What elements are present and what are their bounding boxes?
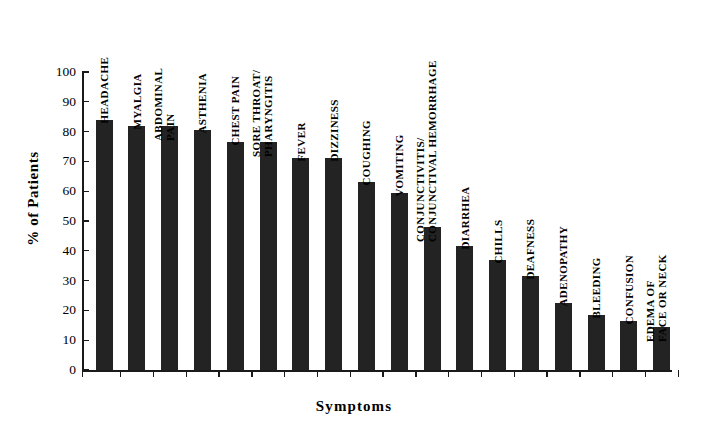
bar xyxy=(424,227,441,370)
x-axis-origin-tick xyxy=(82,370,83,377)
x-axis-tick xyxy=(546,370,547,377)
category-label: ABDOMINAL PAIN xyxy=(153,67,176,140)
bar-chart: % of Patients Symptoms 01020304050607080… xyxy=(0,0,708,435)
bar xyxy=(555,303,572,370)
category-label: ASTHENIA xyxy=(197,73,209,134)
bar xyxy=(456,246,473,370)
category-label: SORE THROAT/ PHARYNGITIS xyxy=(251,70,274,157)
x-axis-tick xyxy=(251,370,252,377)
category-label: EDEMA OF FACE OR NECK xyxy=(645,254,668,342)
y-axis-tick-label: 30 xyxy=(42,274,76,288)
x-axis-tick xyxy=(218,370,219,377)
x-axis-tick xyxy=(186,370,187,377)
x-axis-tick xyxy=(284,370,285,377)
x-axis-tick xyxy=(678,370,679,377)
bar xyxy=(161,126,178,370)
y-axis-tick xyxy=(82,340,89,341)
bar xyxy=(96,120,113,370)
x-axis-tick xyxy=(317,370,318,377)
category-label: DEAFNESS xyxy=(525,219,537,280)
x-axis-tick xyxy=(481,370,482,377)
category-label: VOMITING xyxy=(394,134,406,196)
category-label: CHEST PAIN xyxy=(230,76,242,146)
category-label: MYALGIA xyxy=(131,73,143,129)
category-label: ADENOPATHY xyxy=(558,226,570,307)
y-axis-tick-label: 70 xyxy=(42,154,76,168)
y-axis-tick-label: 40 xyxy=(42,244,76,258)
y-axis-tick-label: 90 xyxy=(42,95,76,109)
y-axis-tick xyxy=(82,310,89,311)
y-axis-tick-label: 80 xyxy=(42,125,76,139)
x-axis-tick xyxy=(645,370,646,377)
x-axis-line xyxy=(82,370,672,372)
x-axis-tick xyxy=(579,370,580,377)
bar xyxy=(620,321,637,370)
x-axis-tick xyxy=(153,370,154,377)
x-axis-title: Symptoms xyxy=(0,398,708,415)
category-label: CONJUNCTIVITIS/ CONJUNCTIVAL HEMORRHAGE xyxy=(415,60,438,242)
category-label: FEVER xyxy=(295,123,307,162)
y-axis-tick-label: 100 xyxy=(42,65,76,79)
y-axis-tick-label: 0 xyxy=(42,363,76,377)
x-axis-tick xyxy=(415,370,416,377)
bar xyxy=(194,130,211,370)
y-axis-tick xyxy=(82,101,89,102)
x-axis-tick xyxy=(612,370,613,377)
x-axis-tick xyxy=(120,370,121,377)
bar xyxy=(325,158,342,370)
category-label: HEADACHE xyxy=(99,56,111,123)
x-axis-tick xyxy=(448,370,449,377)
y-axis-tick-label: 10 xyxy=(42,333,76,347)
category-label: DIZZINESS xyxy=(328,100,340,162)
y-axis-tick-label: 60 xyxy=(42,184,76,198)
x-axis-tick xyxy=(514,370,515,377)
y-axis-tick xyxy=(82,220,89,221)
category-label: DIARRHEA xyxy=(459,187,471,250)
bar xyxy=(489,260,506,370)
y-axis-tick-label: 50 xyxy=(42,214,76,228)
y-axis-title: % of Patients xyxy=(25,119,42,279)
bar xyxy=(292,158,309,370)
y-axis-tick xyxy=(82,250,89,251)
category-label: CONFUSION xyxy=(623,255,635,325)
category-label: BLEEDING xyxy=(591,257,603,318)
x-axis-tick xyxy=(382,370,383,377)
y-axis-tick xyxy=(82,191,89,192)
y-axis-tick-label: 20 xyxy=(42,303,76,317)
y-axis-tick xyxy=(82,161,89,162)
bar xyxy=(588,315,605,370)
y-axis-tick xyxy=(82,280,89,281)
bar xyxy=(358,182,375,370)
x-axis-tick xyxy=(350,370,351,377)
category-label: COUGHING xyxy=(361,120,373,186)
category-label: CHILLS xyxy=(492,219,504,263)
bar xyxy=(260,142,277,370)
bar xyxy=(391,193,408,370)
bar xyxy=(128,126,145,370)
y-axis-tick xyxy=(82,131,89,132)
bar xyxy=(227,142,244,370)
y-axis-tick xyxy=(82,71,89,72)
bar xyxy=(522,276,539,370)
